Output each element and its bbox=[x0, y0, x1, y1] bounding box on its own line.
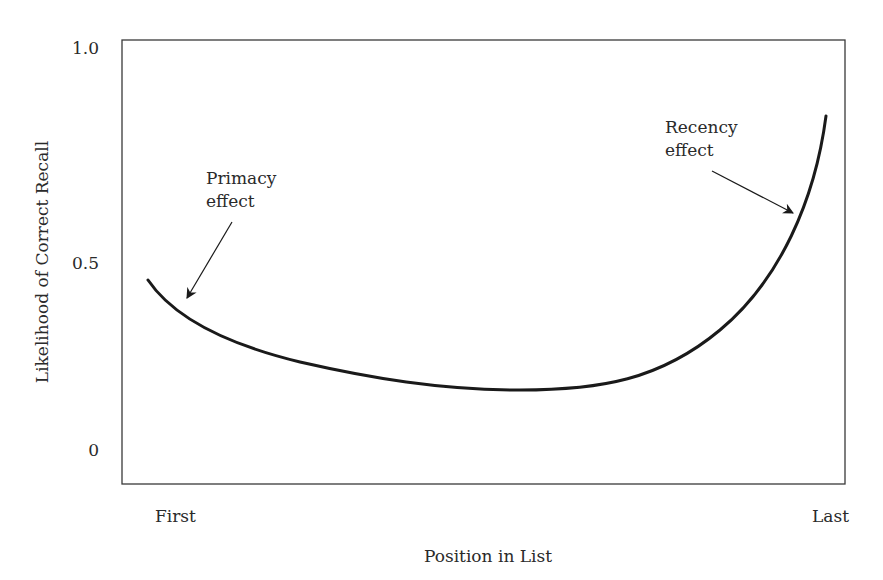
primacy-arrow-icon bbox=[187, 222, 232, 298]
y-tick-0: 0 bbox=[88, 440, 99, 460]
plot-frame bbox=[122, 40, 845, 484]
x-axis-label: Position in List bbox=[424, 546, 552, 566]
x-tick-first: First bbox=[155, 506, 196, 526]
serial-position-curve bbox=[148, 116, 826, 390]
primacy-label-line1: Primacy bbox=[206, 168, 277, 188]
x-tick-last: Last bbox=[812, 506, 849, 526]
primacy-label-line2: effect bbox=[206, 191, 255, 211]
primacy-annotation: Primacy effect bbox=[187, 168, 277, 298]
recency-annotation: Recency effect bbox=[665, 117, 793, 213]
recency-label-line1: Recency bbox=[665, 117, 738, 137]
y-axis-label: Likelihood of Correct Recall bbox=[32, 141, 52, 383]
recency-label-line2: effect bbox=[665, 140, 714, 160]
recency-arrow-icon bbox=[712, 171, 793, 213]
y-tick-0-5: 0.5 bbox=[72, 253, 99, 273]
serial-position-chart: 1.0 0.5 0 Likelihood of Correct Recall F… bbox=[0, 0, 883, 580]
y-tick-1-0: 1.0 bbox=[72, 38, 99, 58]
